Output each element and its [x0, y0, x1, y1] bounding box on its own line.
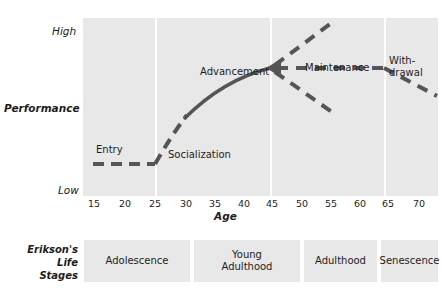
annotation-socialization: Socialization: [168, 149, 231, 161]
stage-label: Adolescence: [106, 255, 169, 267]
x-tick-35: 35: [203, 198, 227, 209]
x-tick-15: 15: [82, 198, 106, 209]
stage-box-adulthood: Adulthood: [304, 240, 377, 282]
stage-box-young-adulthood: Young Adulthood: [194, 240, 300, 282]
stages-title: Erikson's Life Stages: [4, 243, 78, 282]
y-axis-title: Performance: [4, 102, 80, 114]
annotation-withdrawal-line2: drawal: [389, 67, 423, 79]
stages-title-line2: Life: [4, 256, 78, 269]
stage-label: Senescence: [380, 255, 440, 267]
stage-label: Young Adulthood: [222, 249, 273, 273]
career-stages-chart: High Low Performance 15 20 25 30 35 40 4…: [0, 0, 444, 292]
x-tick-45: 45: [260, 198, 284, 209]
stage-label-line2: Adulthood: [222, 261, 273, 273]
curve-maintenance-up: [275, 24, 330, 65]
x-tick-50: 50: [290, 198, 314, 209]
plot-area: [83, 18, 438, 196]
stage-label-line1: Adulthood: [315, 255, 366, 267]
stage-box-senescence: Senescence: [381, 240, 438, 282]
x-tick-30: 30: [174, 198, 198, 209]
x-tick-25: 25: [143, 198, 167, 209]
annotation-withdrawal-line1: With-: [389, 55, 423, 67]
stage-label-line1: Senescence: [380, 255, 440, 267]
x-tick-65: 65: [376, 198, 400, 209]
performance-curves: [83, 18, 438, 196]
annotation-entry: Entry: [96, 144, 123, 156]
annotation-advancement: Advancement: [200, 66, 269, 78]
x-tick-60: 60: [348, 198, 372, 209]
stages-title-line3: Stages: [4, 269, 78, 282]
curve-maintenance-down: [275, 72, 332, 112]
stage-label-line1: Adolescence: [106, 255, 169, 267]
x-axis-title: Age: [214, 210, 237, 222]
y-axis-low-label: Low: [58, 184, 79, 196]
y-axis-high-label: High: [52, 25, 76, 37]
annotation-withdrawal: With- drawal: [389, 55, 423, 78]
x-tick-55: 55: [319, 198, 343, 209]
stage-label: Adulthood: [315, 255, 366, 267]
x-tick-20: 20: [113, 198, 137, 209]
stage-box-adolescence: Adolescence: [84, 240, 190, 282]
stage-label-line1: Young: [222, 249, 273, 261]
x-tick-70: 70: [407, 198, 431, 209]
stages-title-line1: Erikson's: [4, 243, 78, 256]
annotation-maintenance: Maintenance: [305, 62, 369, 74]
x-tick-40: 40: [232, 198, 256, 209]
